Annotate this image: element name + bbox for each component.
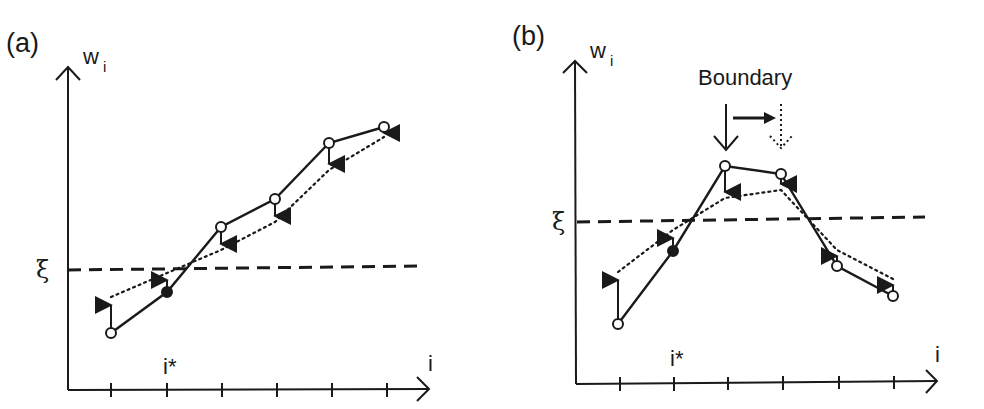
panel-a-updated-curve (111, 137, 384, 297)
boundary-shift-arrow-icon (733, 112, 776, 124)
panel-b-weight-curve (618, 166, 893, 324)
panel-b-istar-label: i* (670, 346, 684, 371)
panel-b-label: (b) (512, 21, 545, 51)
panel-b-point-open (720, 161, 730, 171)
panel-b-y-label: w (589, 38, 606, 63)
panel-b-x-label: i (935, 342, 940, 367)
panel-b-point-open (888, 291, 898, 301)
panel-b-point-open (832, 261, 842, 271)
boundary-label: Boundary (698, 65, 792, 90)
panel-b: (b) w i i i* ξ Boundary (512, 21, 940, 393)
panel-a-x-label: i (428, 351, 433, 376)
panel-b-point-open (613, 319, 623, 329)
panel-a: (a) w i i i* ξ (6, 28, 433, 401)
panel-a-point-open (106, 328, 116, 338)
panel-b-updated-curve (618, 190, 893, 279)
panel-a-point-open (324, 138, 334, 148)
panel-a-point-istar (162, 287, 172, 297)
panel-a-point-open (270, 194, 280, 204)
panel-a-istar-label: i* (163, 354, 177, 379)
figure: (a) w i i i* ξ (0, 0, 984, 409)
panel-a-point-open (216, 222, 226, 232)
panel-b-threshold-line (577, 217, 925, 222)
boundary-solid-arrow-icon (714, 104, 738, 150)
panel-a-x-axis (68, 377, 429, 401)
panel-a-point-open (379, 122, 389, 132)
panel-b-xi-label: ξ (552, 208, 565, 236)
panel-a-y-sub: i (103, 58, 106, 75)
panel-a-xi-label: ξ (36, 256, 49, 284)
panel-a-threshold-line (68, 266, 420, 270)
panel-b-x-axis (576, 370, 937, 393)
panel-a-weight-curve (111, 127, 384, 333)
panel-a-y-axis (56, 67, 80, 390)
panel-b-y-sub: i (610, 52, 613, 69)
panel-b-point-open (776, 169, 786, 179)
panel-b-points (613, 161, 898, 329)
boundary-dotted-arrow-icon (770, 104, 792, 148)
panel-a-label: (a) (6, 28, 39, 58)
panel-a-y-label: w (82, 44, 99, 69)
panel-b-point-istar (668, 246, 678, 256)
